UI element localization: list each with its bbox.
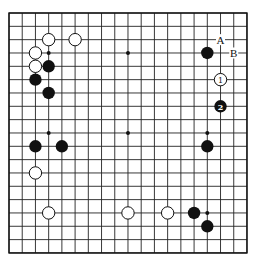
white-stone-disc [42,207,54,219]
black-stone-disc [42,87,54,99]
white-stone-disc [29,167,41,179]
star-point [126,51,130,55]
star-point [205,211,209,215]
white-stone [29,60,41,72]
black-stone-disc [42,60,54,72]
white-stone-disc [69,33,81,45]
black-stone-disc [56,140,68,152]
black-stone [56,140,68,152]
star-point [126,131,130,135]
white-stone: 1 [214,73,226,85]
white-stone-disc [122,207,134,219]
white-stone [29,47,41,59]
star-point [205,131,209,135]
white-stone [42,207,54,219]
point-marker-a: A [216,34,225,46]
black-stone-disc [201,47,213,59]
white-stone-disc [29,60,41,72]
black-stone [29,140,41,152]
black-stone-disc [201,220,213,232]
black-stone: 2 [214,100,226,112]
black-stone [42,87,54,99]
point-marker-b: B [229,47,238,59]
black-stone-disc [201,140,213,152]
black-stone [42,60,54,72]
black-stone [201,140,213,152]
white-stone-disc [29,47,41,59]
black-stone-disc [29,140,41,152]
white-stone [161,207,173,219]
move-number: 2 [218,102,224,112]
marker-letter: A [217,34,225,46]
white-stone [42,33,54,45]
black-stone [29,73,41,85]
star-point [47,131,51,135]
black-stone-disc [188,207,200,219]
star-point [47,51,51,55]
black-stone [201,220,213,232]
white-stone [122,207,134,219]
move-number: 1 [218,76,223,85]
black-stone-disc [29,73,41,85]
letter-markers: AB [216,34,238,59]
white-stone [29,167,41,179]
white-stone-disc [161,207,173,219]
white-stone [69,33,81,45]
marker-letter: B [230,47,237,59]
go-board: 12 AB [0,0,257,266]
white-stone-disc [42,33,54,45]
black-stone [201,47,213,59]
black-stone [188,207,200,219]
